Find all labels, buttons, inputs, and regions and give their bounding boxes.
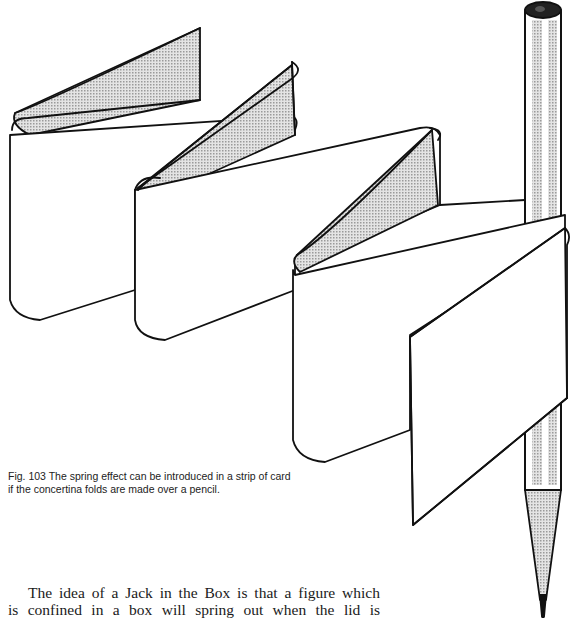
body-paragraph: The idea of a Jack in the Box is that a … [8,584,380,618]
figure-caption: Fig. 103 The spring effect can be introd… [8,470,388,496]
caption-line-1: Fig. 103 The spring effect can be introd… [8,470,388,483]
body-line-1: The idea of a Jack in the Box is that a … [8,584,380,601]
body-line-2: is confined in a box will spring out whe… [8,601,380,618]
concertina-pencil-illustration [0,0,573,619]
caption-line-2: if the concertina folds are made over a … [8,483,388,496]
